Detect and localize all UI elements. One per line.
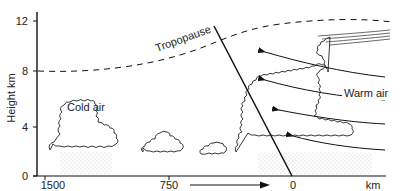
rain-area-front (258, 152, 372, 174)
y-tick-0: 0 (22, 170, 28, 182)
cold-front-diagram: 12 8 4 0 Height km 1500 750 0 km Tropopa… (0, 0, 400, 191)
y-tick-12: 12 (16, 15, 28, 27)
x-tick-1500: 1500 (41, 179, 65, 191)
y-axis-label: Height km (5, 73, 17, 123)
y-tick-4: 4 (22, 121, 28, 133)
warm-air-label: Warm air (344, 87, 389, 99)
y-axis (33, 12, 37, 176)
cloud-cumulus-small-2 (200, 142, 227, 154)
tropopause-label: Tropopause (154, 23, 213, 54)
x-axis (33, 176, 386, 180)
x-tick-0: 0 (290, 179, 296, 191)
x-unit-label: km (366, 179, 381, 191)
y-tick-8: 8 (22, 65, 28, 77)
diagram-canvas: 12 8 4 0 Height km 1500 750 0 km Tropopa… (0, 0, 400, 191)
x-tick-750: 750 (160, 179, 178, 191)
cloud-cumulus-small-1 (141, 131, 183, 152)
rain-area-left (60, 152, 112, 174)
arrowhead-icon (260, 182, 270, 189)
cold-air-label: Cold air (67, 101, 105, 113)
